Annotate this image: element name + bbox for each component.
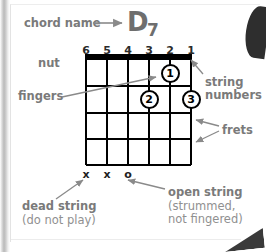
open-string-marker-4: o <box>120 168 136 181</box>
fret-line-4 <box>86 164 191 166</box>
open-string-label: open string <box>168 186 243 199</box>
chord-name-label: chord name <box>24 17 101 30</box>
dead-string-note: (do not play) <box>22 214 96 227</box>
finger-dot-2: 2 <box>140 90 159 109</box>
fret-line-1 <box>86 85 191 87</box>
fingers-label: fingers <box>18 90 63 103</box>
nut-label: nut <box>38 57 60 70</box>
page-bottom-rule <box>11 239 241 240</box>
fret-line-2 <box>86 112 191 114</box>
finger-dot-3: 3 <box>182 90 201 109</box>
chord-quality: 7 <box>147 20 158 40</box>
page-gutter-shadow <box>0 0 10 252</box>
nut-bar <box>85 54 192 60</box>
chord-name-value: D7 <box>127 9 158 43</box>
open-string-note-line2: not fingered) <box>168 213 243 226</box>
chord-root: D <box>127 7 148 37</box>
frets-label: frets <box>222 124 253 137</box>
string-numbers-label-line2: numbers <box>205 89 262 102</box>
dead-string-label: dead string <box>22 200 96 213</box>
muted-string-marker-5: x <box>99 168 115 181</box>
chord-diagram-page: chord name D7 nut fingers string numbers… <box>0 0 266 252</box>
muted-string-marker-6: x <box>78 168 94 181</box>
fret-line-3 <box>86 138 191 140</box>
finger-dot-1: 1 <box>161 64 180 83</box>
